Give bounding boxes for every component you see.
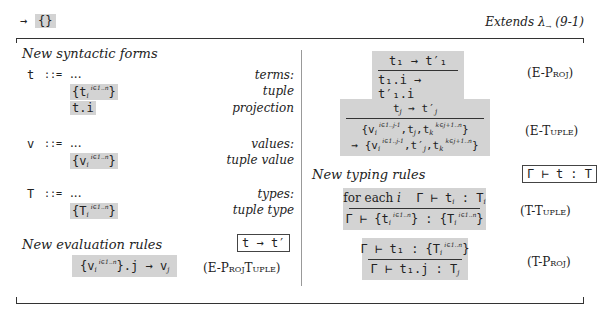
tuple-term-open: {t [72, 85, 86, 99]
e-tuple-l2-c: ,t [426, 139, 439, 152]
tuple-term: {tii∈1..n} [70, 84, 118, 100]
t-tuple-concl-sub: i [389, 219, 391, 227]
terms-defn: ::= [44, 69, 62, 80]
e-proj-rule: t₁ → t′₁ t₁.i → t′₁.i [372, 51, 464, 104]
e-tuple-l1-a: {v [361, 123, 374, 136]
t-tuple-premise-sub2: i [483, 198, 485, 206]
extends-text: Extends λ [485, 15, 545, 29]
e-tuple-l2-sub-i: i [378, 145, 380, 153]
e-projtuple-open: {v [80, 259, 94, 273]
t-tuple-name: (T-Tuple) [520, 204, 571, 218]
e-tuple-name: (E-Tuple) [525, 124, 578, 138]
e-proj-premise: t₁ → t′₁ [389, 54, 447, 68]
tuple-value-open: {v [72, 154, 86, 168]
tuple-term-sup: i∈1..n [91, 84, 109, 91]
e-tuple-rule: tj → t′j {vii∈1..j-1,tj,tkk∈j+1..n} → {v… [340, 99, 490, 156]
bottom-left-tick [16, 297, 17, 303]
t-tuple-concl-b: } : {T [411, 212, 454, 226]
t-proj-concl-sub: j [457, 269, 459, 277]
t-tuple-concl-a: Γ ⊢ {t [345, 212, 388, 226]
types-label: types: [257, 187, 294, 201]
e-tuple-l2-a: → {v [351, 139, 378, 152]
t-tuple-premise-b: Γ ⊢ t [416, 191, 452, 205]
e-tuple-inference-line [346, 118, 484, 119]
extends-ref: (9-1) [555, 15, 584, 29]
types-symbol: T [27, 187, 34, 201]
t-tuple-inference-line [349, 208, 480, 209]
terms-ellipsis: ... [70, 67, 81, 81]
tuple-value-sub: i [86, 161, 88, 169]
values-ellipsis: ... [70, 136, 81, 150]
e-tuple-l2-b: ,t′ [404, 139, 424, 152]
tuple-type: {Tii∈1..n} [70, 203, 118, 219]
typing-title: New typing rules [312, 167, 425, 182]
types-defn: ::= [44, 188, 62, 199]
t-proj-premise: Γ ⊢ t₁ : {Tii∈1..n} [361, 241, 470, 257]
t-tuple-conclusion: Γ ⊢ {tii∈1..n} : {Tii∈1..n} [345, 211, 483, 227]
t-proj-name: (T-Proj) [527, 255, 571, 269]
e-tuple-l1-sub-k: k [429, 129, 433, 137]
tuple-label: tuple [263, 84, 294, 98]
e-tuple-l1-c: ,t [416, 123, 429, 136]
extends-sub: → [546, 23, 552, 31]
e-tuple-l1-sub-i: i [375, 129, 377, 137]
e-tuple-l2-sup2: k∈j+1..n [445, 137, 471, 144]
evaluation-title: New evaluation rules [22, 237, 162, 252]
e-projtuple-name: (E-ProjTuple) [203, 261, 281, 275]
e-tuple-premise: tj → t′j [393, 102, 437, 116]
arrow-symbol: → [20, 14, 27, 28]
values-defn: ::= [44, 138, 62, 149]
values-label: values: [251, 137, 294, 151]
types-ellipsis: ... [70, 186, 81, 200]
e-tuple-l2-d: } [472, 139, 479, 152]
top-right-tick [583, 38, 584, 43]
e-tuple-l2-sup1: i∈1..j-1 [382, 137, 404, 144]
tuple-value-close: } [109, 154, 116, 168]
e-proj-conclusion: t₁.i → t′₁.i [378, 73, 458, 101]
t-proj-premise-a: Γ ⊢ t₁ : {T [361, 242, 440, 256]
t-proj-premise-sup: i∈1..n [444, 241, 462, 248]
tuple-braces-symbol: {} [35, 14, 55, 28]
t-tuple-rule: for each i Γ ⊢ ti : Ti Γ ⊢ {tii∈1..n} : … [343, 188, 486, 230]
e-proj-name: (E-Proj) [527, 66, 573, 80]
e-tuple-premise-sub2: j [435, 108, 437, 116]
tuple-type-close: } [109, 204, 116, 218]
e-proj-inference-line [378, 70, 458, 71]
bottom-border [16, 303, 584, 304]
e-projtuple-rule: {vii∈1..n}.j → vj [72, 255, 177, 277]
bottom-right-tick [583, 297, 584, 303]
e-tuple-premise-b: → t′ [402, 102, 435, 115]
tuple-value-sup: i∈1..n [91, 153, 109, 160]
values-symbol: v [27, 137, 34, 151]
tuple-term-sub: i [86, 92, 88, 100]
t-proj-concl-a: Γ ⊢ t₁.j : T [371, 262, 458, 276]
t-tuple-concl-sup2: i∈1..n [459, 211, 477, 218]
e-projtuple-rest: }.j → v [117, 259, 168, 273]
tuple-type-open: {T [72, 204, 86, 218]
tuple-value: {vii∈1..n} [70, 153, 118, 169]
typing-judgment-box: Γ ⊢ t : T [522, 165, 597, 183]
e-tuple-conclusion-line2: → {vii∈1..j-1,t′j,tkk∈j+1..n} [351, 137, 478, 153]
tuple-type-sup: i∈1..n [91, 203, 109, 210]
e-tuple-premise-a: t [393, 102, 400, 115]
t-proj-conclusion: Γ ⊢ t₁.j : Tj [371, 262, 460, 277]
e-tuple-conclusion-line1: {vii∈1..j-1,tj,tkk∈j+1..n} [361, 121, 468, 137]
tuple-type-label: tuple type [233, 203, 294, 217]
terms-label: terms: [255, 68, 294, 82]
tuple-term-close: } [109, 85, 116, 99]
syntax-title: New syntactic forms [22, 46, 158, 61]
e-projtuple-sub: i [94, 266, 96, 274]
e-tuple-l1-d: } [462, 123, 469, 136]
t-tuple-concl-sup: i∈1..n [393, 211, 411, 218]
t-tuple-concl-sub2: i [454, 219, 456, 227]
t-tuple-premise-c: : T [455, 191, 484, 205]
e-projtuple-rhs-sub: j [167, 266, 169, 274]
e-tuple-l1-sup1: i∈1..j-1 [379, 121, 401, 128]
e-tuple-l2-sub-k: k [439, 145, 443, 153]
t-proj-premise-sub: i [440, 249, 442, 257]
e-tuple-l1-b: ,t [401, 123, 414, 136]
extends-label: Extends λ→ (9-1) [485, 15, 584, 31]
projection-term: t.i [70, 101, 96, 115]
top-left-tick [16, 38, 17, 43]
column-divider [301, 50, 302, 286]
